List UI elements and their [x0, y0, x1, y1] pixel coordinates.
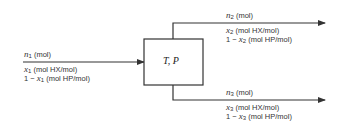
bottom-flow-label: n3 (mol): [226, 88, 253, 99]
top-flow-label: n2 (mol): [226, 11, 253, 22]
top-comp-unit: (mol HP/mol): [246, 35, 292, 44]
feed-flow-unit: (mol): [32, 50, 51, 59]
feed-comp-unit: (mol HP/mol): [44, 74, 90, 83]
feed-flow-label: n1 (mol): [24, 50, 51, 61]
top-complement-label: 1 − x2 (mol HP/mol): [226, 35, 292, 46]
bottom-comp-prefix: 1 −: [226, 112, 239, 121]
bottom-complement-label: 1 − x3 (mol HP/mol): [226, 112, 292, 123]
bottom-comp-unit: (mol HP/mol): [246, 112, 292, 121]
top-flow-unit: (mol): [234, 11, 253, 20]
feed-complement-label: 1 − x1 (mol HP/mol): [24, 74, 90, 85]
top-comp-prefix: 1 −: [226, 35, 239, 44]
unit-label: T, P: [163, 55, 179, 66]
feed-comp-prefix: 1 −: [24, 74, 37, 83]
bottom-flow-unit: (mol): [234, 88, 253, 97]
